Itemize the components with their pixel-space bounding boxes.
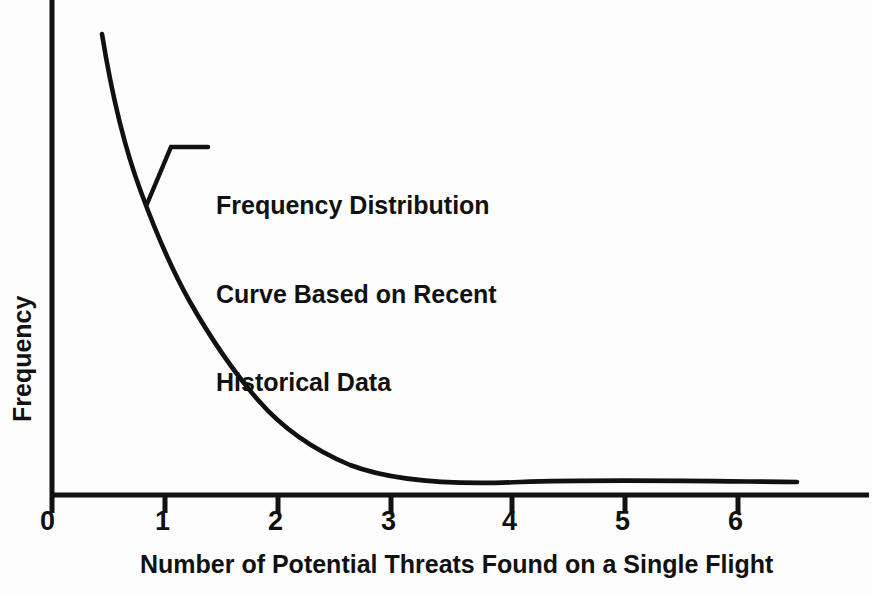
curve-annotation-line-2: Curve Based on Recent: [216, 280, 497, 310]
x-tick-label-3: 3: [381, 506, 396, 538]
curve-annotation-line-1: Frequency Distribution: [216, 191, 497, 221]
x-tick-label-5: 5: [615, 506, 630, 538]
x-tick-label-1: 1: [155, 506, 170, 538]
y-axis-title: Frequency: [8, 296, 38, 422]
x-tick-label-2: 2: [268, 506, 283, 538]
x-axis-ticks: [165, 495, 738, 513]
x-tick-label-4: 4: [502, 506, 517, 538]
frequency-distribution-chart: 0 1 2 3 4 5 6 Number of Potential Threat…: [0, 0, 872, 594]
curve-annotation: Frequency Distribution Curve Based on Re…: [216, 132, 497, 457]
curve-annotation-line-3: Historical Data: [216, 368, 497, 398]
annotation-leader-line: [147, 147, 208, 204]
x-tick-label-6: 6: [728, 506, 743, 538]
x-tick-label-0: 0: [40, 506, 55, 538]
x-axis-title: Number of Potential Threats Found on a S…: [140, 550, 773, 580]
